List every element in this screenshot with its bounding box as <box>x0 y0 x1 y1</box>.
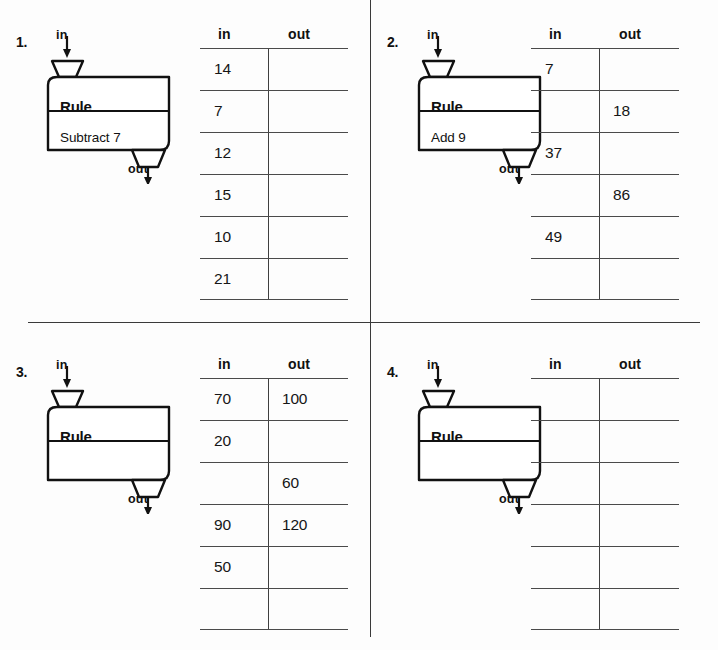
row-line <box>531 48 679 49</box>
problem-4: 4. in out Rule in <box>371 344 718 650</box>
row-line <box>200 174 348 175</box>
cell-in[interactable]: 90 <box>214 516 231 534</box>
row-line <box>531 299 679 300</box>
column-header-in: in <box>218 26 231 42</box>
column-header-out: out <box>288 356 310 372</box>
problem-number: 4. <box>387 364 398 380</box>
problem-number: 2. <box>387 34 398 50</box>
row-line <box>200 546 348 547</box>
problem-2: 2. in out Rule Add 9 <box>371 14 718 324</box>
row-line <box>200 629 348 630</box>
out-arrow-icon <box>515 168 523 184</box>
io-table-header: in out <box>531 352 679 378</box>
row-line <box>200 420 348 421</box>
cell-out[interactable]: 86 <box>613 186 630 204</box>
row-line <box>531 90 679 91</box>
io-table: in out 14 7 12 15 10 <box>200 22 348 302</box>
problem-number: 1. <box>16 34 27 50</box>
io-table-grid: 7 18 37 86 49 <box>531 48 679 300</box>
cell-out[interactable]: 60 <box>282 474 299 492</box>
io-table-grid <box>531 378 679 630</box>
cell-in[interactable]: 7 <box>214 102 222 120</box>
row-line <box>531 629 679 630</box>
cell-in[interactable]: 21 <box>214 270 231 288</box>
cell-out[interactable]: 18 <box>613 102 630 120</box>
rule-title: Rule <box>60 98 92 115</box>
in-arrow-icon <box>63 36 71 58</box>
in-arrow-icon <box>63 366 71 388</box>
rule-title: Rule <box>60 428 92 445</box>
cell-in[interactable]: 12 <box>214 144 231 162</box>
cell-in[interactable]: 50 <box>214 558 231 576</box>
row-line <box>531 588 679 589</box>
row-line <box>200 258 348 259</box>
row-line <box>531 420 679 421</box>
row-line <box>531 504 679 505</box>
row-line <box>531 132 679 133</box>
io-table: in out 70 100 20 60 90 120 50 <box>200 352 348 632</box>
out-arrow-icon <box>144 168 152 184</box>
problem-1: 1. in out <box>0 14 355 324</box>
row-line <box>200 378 348 379</box>
io-table-grid: 14 7 12 15 10 21 <box>200 48 348 300</box>
row-line <box>531 174 679 175</box>
problem-3: 3. in out Rule in <box>0 344 355 650</box>
cell-out[interactable]: 120 <box>282 516 307 534</box>
row-line <box>531 258 679 259</box>
in-arrow-icon <box>434 36 442 58</box>
io-table-grid: 70 100 20 60 90 120 50 <box>200 378 348 630</box>
row-line <box>200 48 348 49</box>
io-table-header: in out <box>200 352 348 378</box>
cell-in[interactable]: 49 <box>545 228 562 246</box>
cell-in[interactable]: 15 <box>214 186 231 204</box>
io-table: in out 7 18 37 86 49 <box>531 22 679 302</box>
out-arrow-icon <box>515 498 523 514</box>
column-header-in: in <box>549 356 562 372</box>
io-table: in out <box>531 352 679 632</box>
column-header-out: out <box>619 356 641 372</box>
in-arrow-icon <box>434 366 442 388</box>
cell-in[interactable]: 7 <box>545 60 553 78</box>
cell-out[interactable]: 100 <box>282 390 307 408</box>
row-line <box>531 216 679 217</box>
problem-number: 3. <box>16 364 27 380</box>
row-line <box>531 462 679 463</box>
rule-title: Rule <box>431 428 463 445</box>
rule-text[interactable]: Subtract 7 <box>60 130 121 145</box>
cell-in[interactable]: 10 <box>214 228 231 246</box>
worksheet-page: 1. in out <box>0 0 718 650</box>
row-line <box>531 546 679 547</box>
clipped-header-text <box>14 0 674 3</box>
column-header-out: out <box>288 26 310 42</box>
cell-in[interactable]: 70 <box>214 390 231 408</box>
cell-in[interactable]: 20 <box>214 432 231 450</box>
row-line <box>531 378 679 379</box>
cell-in[interactable]: 37 <box>545 144 562 162</box>
out-arrow-icon <box>144 498 152 514</box>
column-header-in: in <box>218 356 231 372</box>
row-line <box>200 90 348 91</box>
column-header-out: out <box>619 26 641 42</box>
rule-title: Rule <box>431 98 463 115</box>
io-table-header: in out <box>531 22 679 48</box>
row-line <box>200 132 348 133</box>
column-header-in: in <box>549 26 562 42</box>
cell-in[interactable]: 14 <box>214 60 231 78</box>
row-line <box>200 216 348 217</box>
io-table-header: in out <box>200 22 348 48</box>
rule-text[interactable]: Add 9 <box>431 130 466 145</box>
row-line <box>200 462 348 463</box>
row-line <box>200 299 348 300</box>
row-line <box>200 504 348 505</box>
row-line <box>200 588 348 589</box>
